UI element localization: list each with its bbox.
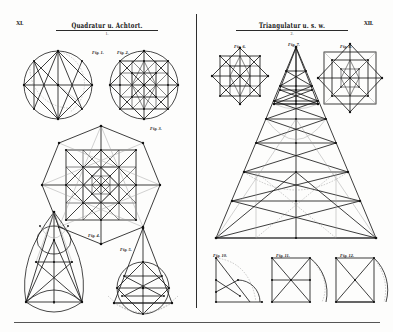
fig-label-8: Fig. 8. <box>340 44 352 49</box>
left-page-subtitle: 1. <box>48 31 166 36</box>
fig-label-7: Fig. 7. <box>288 42 300 47</box>
figure-12 <box>335 257 388 303</box>
bottom-rule <box>14 322 380 323</box>
figure-3 <box>41 125 161 246</box>
fig-label-6: Fig. 6. <box>234 44 246 49</box>
fig-label-10: Fig. 10. <box>213 253 227 258</box>
right-page-title: Triangulatur u. s. w. <box>226 21 358 29</box>
fig-label-1: Fig. 1. <box>92 50 104 55</box>
fig-label-5: Fig. 5. <box>120 247 132 252</box>
page-gutter-divider <box>196 14 197 308</box>
plate-number-left: XI. <box>16 20 23 26</box>
fig-label-3: Fig. 3. <box>150 126 162 131</box>
plate-number-right: XII. <box>364 20 373 26</box>
figure-1 <box>23 50 93 120</box>
figure-10 <box>215 257 263 303</box>
right-page-subtitle: 2. <box>226 31 358 36</box>
fig-label-11: Fig. 11. <box>276 253 290 258</box>
fig-label-4: Fig. 4. <box>88 233 100 238</box>
figure-5 <box>108 227 178 315</box>
figure-11 <box>271 257 327 303</box>
left-page-title: Quadratur u. Achtort. <box>48 21 166 29</box>
figure-7 <box>273 47 319 109</box>
figure-8 <box>317 43 383 113</box>
geometry-plate: XI. XII. Quadratur u. Achtort. 1. Triang… <box>0 0 393 332</box>
figure-9 <box>215 46 378 240</box>
fig-label-12: Fig. 12. <box>340 253 354 258</box>
figure-6 <box>211 47 269 105</box>
figure-2 <box>109 50 179 120</box>
fig-label-2: Fig. 2. <box>117 50 129 55</box>
figure-4 <box>25 211 84 312</box>
